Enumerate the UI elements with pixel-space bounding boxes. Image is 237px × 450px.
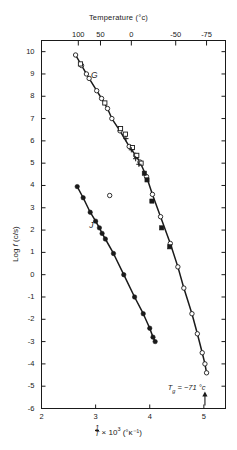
y-tick-label: -6 xyxy=(0,404,35,413)
marker-J xyxy=(100,231,104,235)
y-tick-label: 5 xyxy=(0,158,35,167)
marker-J xyxy=(132,295,136,299)
marker-filled-squares xyxy=(145,178,149,182)
curve-G xyxy=(76,55,207,373)
curve-label-g: G xyxy=(91,70,98,80)
marker-J xyxy=(103,237,107,241)
x-axis-title: 1T × 103 (°κ⁻¹) xyxy=(0,425,237,439)
y-tick-label: -2 xyxy=(0,314,35,323)
marker-G xyxy=(158,214,162,218)
marker-G xyxy=(73,53,77,57)
marker-G xyxy=(200,351,204,355)
marker-G xyxy=(95,88,99,92)
top-tick-label: -75 xyxy=(193,30,221,39)
marker-G-squares xyxy=(123,132,127,136)
tg-label: Tg = −71 °c xyxy=(168,383,206,394)
y-tick-label: 4 xyxy=(0,180,35,189)
figure-panel: 109876543210-1-2-3-4-5-62345100500-50-75… xyxy=(0,0,237,450)
x-tick-label: 4 xyxy=(142,412,158,421)
marker-G xyxy=(105,106,109,110)
marker-G xyxy=(150,192,154,196)
marker-filled-squares xyxy=(150,199,154,203)
x-tick-label: 2 xyxy=(34,412,50,421)
y-tick-label: 0 xyxy=(0,270,35,279)
curve-label-j: J xyxy=(89,220,93,230)
x-tick-label: 3 xyxy=(88,412,104,421)
marker-J xyxy=(97,226,101,230)
y-tick-label: 10 xyxy=(0,47,35,56)
top-tick-label: -50 xyxy=(162,30,190,39)
marker-G xyxy=(190,312,194,316)
marker-G-squares xyxy=(118,126,122,130)
top-axis-title: Temperature (°c) xyxy=(0,13,237,22)
y-tick-label: -1 xyxy=(0,292,35,301)
y-tick-label: 3 xyxy=(0,203,35,212)
y-tick-label: -3 xyxy=(0,337,35,346)
y-tick-label: 6 xyxy=(0,136,35,145)
marker-G xyxy=(204,371,208,375)
marker-G xyxy=(182,286,186,290)
x-tick-label: 5 xyxy=(196,412,212,421)
y-tick-label: 7 xyxy=(0,114,35,123)
marker-J xyxy=(88,210,92,214)
marker-G xyxy=(195,332,199,336)
plot-frame xyxy=(42,41,226,409)
marker-filled-squares xyxy=(142,171,146,175)
y-tick-label: -5 xyxy=(0,381,35,390)
marker-filled-squares xyxy=(168,245,172,249)
marker-J xyxy=(141,312,145,316)
marker-J xyxy=(111,251,115,255)
marker-G-squares xyxy=(78,62,82,66)
marker-G xyxy=(203,362,207,366)
marker-J xyxy=(122,272,126,276)
marker-filled-squares xyxy=(160,226,164,230)
marker-G xyxy=(176,265,180,269)
marker-G-squares xyxy=(103,101,107,105)
marker-G xyxy=(84,72,88,76)
top-tick-label: 0 xyxy=(117,30,145,39)
y-axis-title: Log f (c/s) xyxy=(11,226,20,262)
curve-J xyxy=(77,187,155,342)
top-tick-label: 50 xyxy=(86,30,114,39)
marker-J xyxy=(153,339,157,343)
marker-G xyxy=(99,96,103,100)
y-tick-label: -4 xyxy=(0,359,35,368)
marker-J xyxy=(81,196,85,200)
marker-J xyxy=(151,335,155,339)
marker-G xyxy=(110,116,114,120)
marker-isolated-open-circle xyxy=(107,193,111,197)
marker-J xyxy=(93,219,97,223)
marker-J xyxy=(148,326,152,330)
y-tick-label: 9 xyxy=(0,69,35,78)
y-tick-label: 8 xyxy=(0,91,35,100)
marker-J xyxy=(75,184,79,188)
